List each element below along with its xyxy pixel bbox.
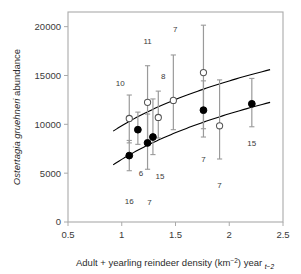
x-tick-label: 2 xyxy=(227,229,232,240)
data-point-label: 11 xyxy=(143,37,152,46)
filled-circle-marker xyxy=(134,126,141,133)
x-tick-label: 2.5 xyxy=(276,229,289,240)
y-tick-label: 20000 xyxy=(35,21,61,32)
data-point-label: 6 xyxy=(139,169,144,178)
data-point-label: 7 xyxy=(217,181,222,190)
data-point-label: 16 xyxy=(125,197,134,206)
svg-text:Ostertagia gruehneri abundance: Ostertagia gruehneri abundance xyxy=(11,49,22,185)
filled-circle-marker xyxy=(126,152,133,159)
open-circle-marker xyxy=(144,99,150,105)
open-circle-marker xyxy=(126,115,132,121)
open-circle-marker xyxy=(200,69,206,75)
data-point-label: 7 xyxy=(173,25,178,34)
data-point-label: 7 xyxy=(201,155,206,164)
open-circle-marker xyxy=(216,123,222,129)
data-point-label: 7 xyxy=(147,198,152,207)
filled-circle-marker xyxy=(200,107,207,114)
filled-circle-marker xyxy=(248,100,255,107)
y-tick-label: 0 xyxy=(56,216,61,227)
data-point-label: 15 xyxy=(155,172,164,181)
x-tick-label: 1.5 xyxy=(169,229,182,240)
x-tick-label: 0.5 xyxy=(61,229,74,240)
filled-circle-marker xyxy=(150,134,157,141)
data-point-label: 8 xyxy=(161,72,166,81)
x-axis-title: Adult + yearling reindeer density (km−2)… xyxy=(76,257,274,270)
data-point-label: 15 xyxy=(247,139,256,148)
y-tick-label: 10000 xyxy=(35,119,61,130)
y-tick-label: 15000 xyxy=(35,70,61,81)
scatter-chart: 05000100001500020000 0.511.522.5 1011874… xyxy=(0,0,301,274)
open-circle-marker xyxy=(155,114,161,120)
filled-circle-marker xyxy=(144,139,151,146)
y-axis-title: Ostertagia gruehneri abundance xyxy=(11,49,22,185)
data-point-label: 10 xyxy=(116,79,125,88)
y-tick-label: 5000 xyxy=(40,168,61,179)
x-tick-label: 1 xyxy=(119,229,124,240)
open-circle-marker xyxy=(170,97,176,103)
figure-container: 05000100001500020000 0.511.522.5 1011874… xyxy=(0,0,301,274)
